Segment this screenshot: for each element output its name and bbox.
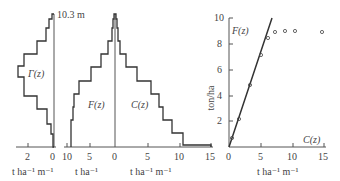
fc-panel: F(z) C(z) 10 5 0 5 10 15 t ha⁻¹ t ha⁻¹ m… xyxy=(62,14,215,177)
f-tick-label-10: 10 xyxy=(62,151,72,162)
gamma-series-label: Γ(z) xyxy=(27,68,45,80)
y-tick-label-6: 6 xyxy=(217,64,222,75)
data-point xyxy=(293,29,296,32)
scatter-c-label: C(z) xyxy=(303,134,321,146)
figure: Γ(z) 10.3 m 2 0 t ha⁻¹ m⁻¹ F(z) C(z) 10 … xyxy=(0,0,340,181)
y-tick-label-2: 2 xyxy=(217,115,222,126)
c-unit-label: t ha⁻¹ m⁻¹ xyxy=(130,166,172,177)
f-tick-label-5: 5 xyxy=(87,151,92,162)
gamma-tick-label-2: 2 xyxy=(25,151,30,162)
c-histogram xyxy=(115,14,211,147)
data-point xyxy=(273,30,276,33)
f-tick-label-0: 0 xyxy=(112,151,117,162)
c-series-label: C(z) xyxy=(131,99,149,111)
height-annotation: 10.3 m xyxy=(57,9,85,20)
x-tick-label-15: 15 xyxy=(318,151,328,162)
c-tick-label-10: 10 xyxy=(174,151,184,162)
scatter-x-unit: t ha⁻¹ m⁻¹ xyxy=(257,166,299,177)
y-tick-label-4: 4 xyxy=(217,90,222,101)
f-histogram xyxy=(71,14,115,147)
gamma-histogram xyxy=(18,14,54,147)
fit-line xyxy=(229,18,272,147)
gamma-unit-label: t ha⁻¹ m⁻¹ xyxy=(12,166,54,177)
data-point xyxy=(320,30,323,33)
x-tick-label-10: 10 xyxy=(287,151,297,162)
x-tick-label-5: 5 xyxy=(258,151,263,162)
y-tick-label-10: 10 xyxy=(214,12,224,23)
data-point xyxy=(283,29,286,32)
f-series-label: F(z) xyxy=(87,99,105,111)
x-tick-label-0: 0 xyxy=(226,151,231,162)
scatter-y-unit: ton/ha xyxy=(205,85,216,111)
data-point xyxy=(266,36,269,39)
gamma-tick-label-0: 0 xyxy=(50,151,55,162)
f-unit-label: t ha⁻¹ xyxy=(75,166,98,177)
gamma-panel: Γ(z) 10.3 m 2 0 t ha⁻¹ m⁻¹ xyxy=(12,9,85,177)
y-tick-label-8: 8 xyxy=(217,38,222,49)
c-tick-label-5: 5 xyxy=(145,151,150,162)
c-tick-label-15: 15 xyxy=(205,151,215,162)
scatter-panel: F(z) C(z) 2 4 6 8 10 0 5 10 15 t ha⁻¹ m⁻… xyxy=(205,12,328,177)
scatter-f-label: F(z) xyxy=(231,25,249,37)
